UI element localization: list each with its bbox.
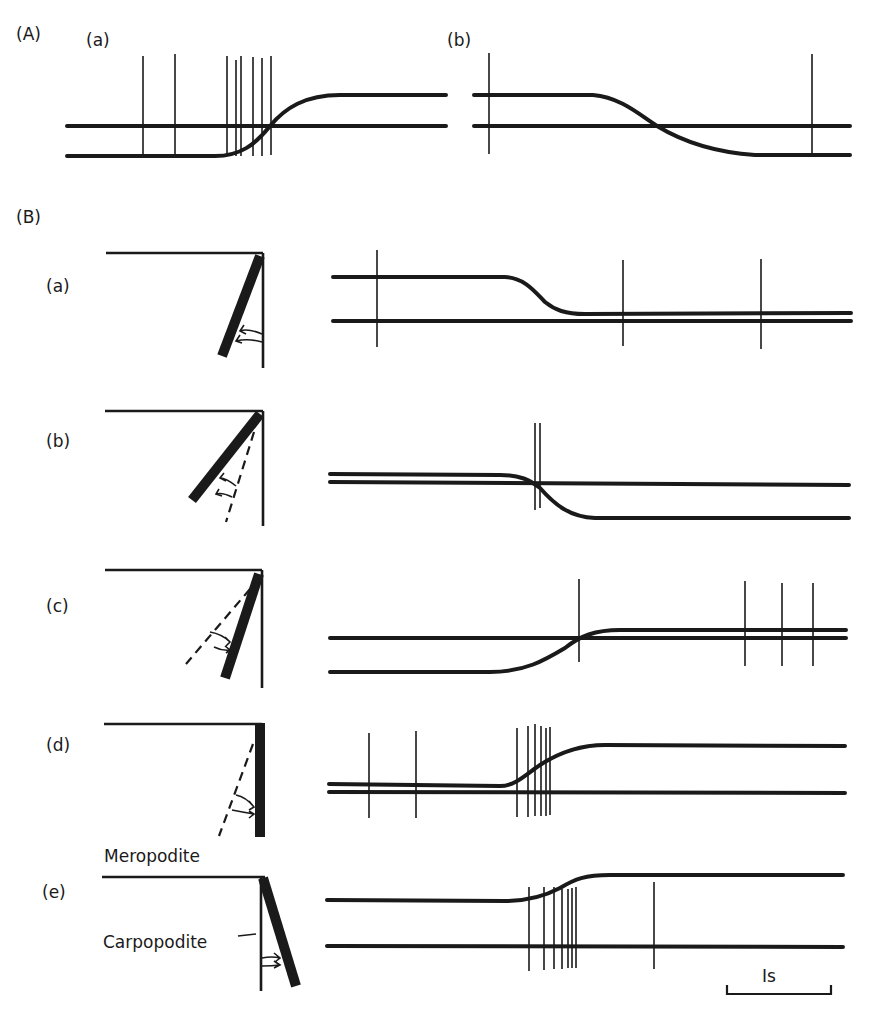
panel-a-sub-a-label: (a): [86, 30, 110, 50]
meropodite-annotation: Meropodite: [104, 846, 200, 866]
limb-schematic: [105, 411, 263, 526]
scale-bar-label: Is: [762, 966, 776, 986]
panel-b-label: (B): [16, 207, 41, 227]
scale-bar-line: [727, 985, 831, 994]
limb-schematic: [105, 570, 262, 688]
reference-trace: [329, 792, 845, 793]
movement-arrow-icon: [232, 795, 254, 818]
movement-arrow-icon: [216, 473, 236, 497]
position-trace: [333, 277, 851, 314]
reference-trace: [330, 482, 849, 485]
row-label: (d): [46, 735, 70, 755]
limb-schematic: [106, 253, 263, 368]
spike-train: [489, 53, 812, 155]
movement-arrow-icon: [262, 953, 280, 968]
previous-position-dashed: [219, 744, 253, 836]
panel-a: (A) (a) (b): [16, 24, 850, 156]
row-label: (a): [46, 276, 70, 296]
scale-bar: Is: [727, 966, 831, 994]
carpopodite-leader-line: [238, 934, 256, 936]
spike-train: [535, 423, 540, 510]
spike-train: [143, 54, 271, 156]
panel-a-sub-a: (a): [67, 30, 446, 156]
panel-a-sub-b: (b): [447, 30, 850, 155]
position-trace: [329, 745, 845, 786]
carpopodite: [263, 878, 296, 986]
spike-train: [579, 579, 813, 666]
carpopodite: [225, 574, 259, 678]
carpopodite-annotation: Carpopodite: [103, 932, 207, 952]
spike-train: [369, 724, 550, 818]
panel-b-row-e: (e) Carpopodite: [42, 875, 843, 991]
panel-a-sub-b-label: (b): [447, 30, 471, 50]
panel-b-row-d: (d) Meropodite: [46, 723, 845, 866]
figure-canvas: (A) (a) (b): [0, 0, 871, 1016]
limb-schematic: [104, 723, 262, 837]
movement-arrow-icon: [236, 325, 262, 343]
row-label: (c): [46, 596, 69, 616]
panel-b-row-c: (c): [46, 570, 846, 688]
panel-b-row-a: (a): [46, 250, 851, 368]
panel-b: (B) (a) (b): [16, 207, 851, 991]
spike-train: [377, 250, 761, 349]
position-trace: [327, 875, 843, 901]
carpopodite: [192, 414, 260, 500]
row-label: (b): [46, 431, 70, 451]
panel-b-row-b: (b): [46, 411, 849, 526]
row-label: (e): [42, 882, 66, 902]
movement-arrow-icon: [210, 632, 230, 653]
reference-trace: [327, 946, 843, 947]
panel-a-label: (A): [16, 24, 41, 44]
